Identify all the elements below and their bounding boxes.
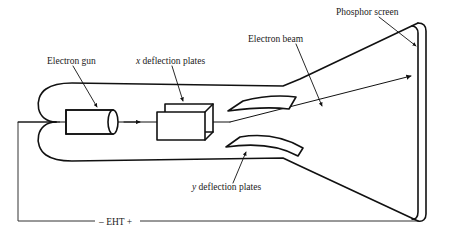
crt-diagram: Electron gun x deflection plates y defle… xyxy=(0,0,459,233)
label-eht: – EHT + xyxy=(98,217,132,227)
label-electron-beam: Electron beam xyxy=(248,34,304,44)
y-deflection-plates xyxy=(226,96,303,156)
figure-canvas: Electron gun x deflection plates y defle… xyxy=(0,0,459,233)
label-x-text: deflection plates xyxy=(140,56,205,66)
phosphor-screen xyxy=(412,23,426,221)
label-electron-gun: Electron gun xyxy=(47,56,96,66)
label-y-deflection-plates: y deflection plates xyxy=(191,182,261,192)
x-deflection-plates xyxy=(157,104,213,140)
electron-gun xyxy=(66,110,118,134)
label-phosphor-screen: Phosphor screen xyxy=(336,7,399,17)
label-x-deflection-plates: x deflection plates xyxy=(135,56,205,66)
eht-circuit-wire xyxy=(18,122,417,221)
label-y-text: deflection plates xyxy=(196,182,261,192)
